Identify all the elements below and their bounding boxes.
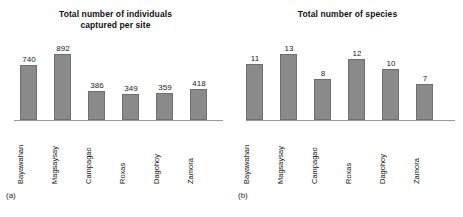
bar-value-label: 13 <box>272 44 306 53</box>
bar-value-label: 349 <box>114 84 148 93</box>
panel-letter-b: (b) <box>238 191 248 200</box>
x-tick-labels-b: BayawahanMagsaysayCampagaoRoxasDagohoyZa… <box>232 122 463 184</box>
x-tick-label: Magsaysay <box>277 146 285 184</box>
x-tick-label: Campagao <box>85 147 93 184</box>
bar-value-label: 8 <box>306 69 340 78</box>
x-tick-label: Roxas <box>345 163 353 184</box>
chart-title-b: Total number of species <box>232 9 463 20</box>
bar <box>314 79 331 120</box>
bar <box>348 59 365 120</box>
bar <box>54 54 71 120</box>
chart-title-a: Total number of individuals captured per… <box>0 9 231 30</box>
chart-title-b-line1: Total number of species <box>232 9 463 20</box>
bar-value-label: 418 <box>182 79 216 88</box>
x-tick-label: Zamora <box>413 158 421 184</box>
bar-value-label: 12 <box>340 49 374 58</box>
figure-two-bar-charts: Total number of individuals captured per… <box>0 0 463 217</box>
x-tick-slot: Zamora <box>182 122 216 184</box>
chart-title-a-line1: Total number of individuals <box>0 9 231 20</box>
x-axis-line-a <box>14 120 223 121</box>
x-tick-slot: Roxas <box>340 122 374 184</box>
bar-value-label: 386 <box>80 81 114 90</box>
bar <box>280 54 297 120</box>
x-tick-labels-a: BayawahanMagsaysayCampagaoRoxasDagohoyZa… <box>0 122 231 184</box>
x-tick-label: Roxas <box>119 163 127 184</box>
x-tick-slot: Campagao <box>80 122 114 184</box>
bar <box>382 69 399 120</box>
chart-panel-a: Total number of individuals captured per… <box>0 0 231 217</box>
x-tick-slot: Dagohoy <box>148 122 182 184</box>
x-tick-slot: Magsaysay <box>272 122 306 184</box>
x-tick-slot: Campagao <box>306 122 340 184</box>
x-tick-slot: Bayawahan <box>12 122 46 184</box>
bar-value-label: 892 <box>46 44 80 53</box>
x-tick-slot: Magsaysay <box>46 122 80 184</box>
panel-letter-a: (a) <box>6 191 16 200</box>
bar <box>88 91 105 120</box>
x-tick-label: Dagohoy <box>379 154 387 184</box>
x-tick-slot: Dagohoy <box>374 122 408 184</box>
x-tick-slot: Roxas <box>114 122 148 184</box>
x-tick-label: Bayawahan <box>17 145 25 184</box>
bar <box>416 84 433 120</box>
bar-value-label: 11 <box>238 54 272 63</box>
x-tick-label: Zamora <box>187 158 195 184</box>
chart-title-a-line2: captured per site <box>0 20 231 31</box>
x-tick-slot: Zamora <box>408 122 442 184</box>
x-tick-slot: Bayawahan <box>238 122 272 184</box>
bar-value-label: 359 <box>148 83 182 92</box>
bar <box>156 93 173 120</box>
x-tick-label: Magsaysay <box>51 146 59 184</box>
x-axis-line-b <box>246 120 455 121</box>
x-tick-label: Campagao <box>311 147 319 184</box>
bar <box>122 94 139 120</box>
chart-panel-b: Total number of species 1113812107 Bayaw… <box>232 0 463 217</box>
plot-area-b: 1113812107 <box>232 32 463 121</box>
bar-value-label: 740 <box>12 55 46 64</box>
bar <box>20 65 37 120</box>
bar-value-label: 7 <box>408 74 442 83</box>
plot-area-a: 740892386349359418 <box>0 32 231 121</box>
bar <box>246 64 263 120</box>
bar <box>190 89 207 120</box>
x-tick-label: Bayawahan <box>243 145 251 184</box>
x-tick-label: Dagohoy <box>153 154 161 184</box>
bar-value-label: 10 <box>374 59 408 68</box>
